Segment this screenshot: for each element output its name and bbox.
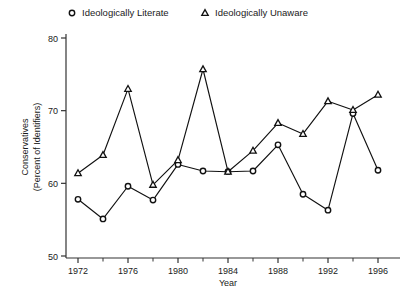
tick-labels: 506070801972197619801984198819921996 — [48, 34, 388, 277]
data-point-1994-unaware — [350, 107, 356, 113]
y-axis-title-line1: Conservatives — [20, 118, 30, 176]
data-point-1974-literate — [100, 216, 105, 221]
data-point-1982-unaware — [200, 66, 206, 72]
x-tick-label-1976: 1976 — [118, 266, 138, 276]
data-point-1972-literate — [75, 197, 80, 202]
chart-legend: Ideologically LiterateIdeologically Unaw… — [69, 7, 308, 18]
x-tick-label-1992: 1992 — [318, 266, 338, 276]
legend-label-0: Ideologically Literate — [82, 7, 169, 18]
data-point-1980-unaware — [175, 157, 181, 163]
data-point-1976-literate — [125, 184, 130, 189]
data-point-1988-unaware — [275, 120, 281, 126]
x-axis-title: Year — [219, 278, 237, 288]
data-point-1974-unaware — [100, 152, 106, 158]
chart-axes — [61, 34, 400, 263]
data-point-1992-unaware — [325, 98, 331, 104]
data-point-1992-literate — [325, 208, 330, 213]
data-point-1996-unaware — [375, 91, 381, 97]
y-axis-title-line2: (Percent of Identifiers) — [32, 103, 42, 192]
x-tick-label-1996: 1996 — [368, 266, 388, 276]
data-point-1996-literate — [375, 168, 380, 173]
data-series — [75, 66, 381, 222]
data-point-1982-literate — [200, 168, 205, 173]
x-tick-label-1972: 1972 — [68, 266, 88, 276]
data-point-1972-unaware — [75, 170, 81, 176]
legend-label-1: Ideologically Unaware — [215, 7, 308, 18]
data-point-1988-literate — [275, 142, 280, 147]
series-line-0 — [78, 114, 378, 219]
y-tick-label-70: 70 — [48, 106, 58, 116]
line-chart: Ideologically LiterateIdeologically Unaw… — [0, 0, 415, 298]
y-tick-label-80: 80 — [48, 34, 58, 44]
chart-figure: Ideologically LiterateIdeologically Unaw… — [0, 0, 415, 298]
legend-item-1: Ideologically Unaware — [202, 7, 308, 18]
data-point-1978-literate — [150, 197, 155, 202]
series-unaware — [75, 66, 381, 187]
y-tick-label-60: 60 — [48, 179, 58, 189]
legend-item-0: Ideologically Literate — [69, 7, 168, 18]
legend-marker-circle — [69, 10, 74, 15]
x-tick-label-1984: 1984 — [218, 266, 238, 276]
legend-marker-triangle — [202, 10, 208, 16]
y-tick-label-50: 50 — [48, 252, 58, 262]
x-tick-label-1988: 1988 — [268, 266, 288, 276]
data-point-1990-literate — [300, 192, 305, 197]
data-point-1976-unaware — [125, 85, 131, 91]
data-point-1986-literate — [250, 168, 255, 173]
series-literate — [75, 111, 380, 222]
x-tick-label-1980: 1980 — [168, 266, 188, 276]
